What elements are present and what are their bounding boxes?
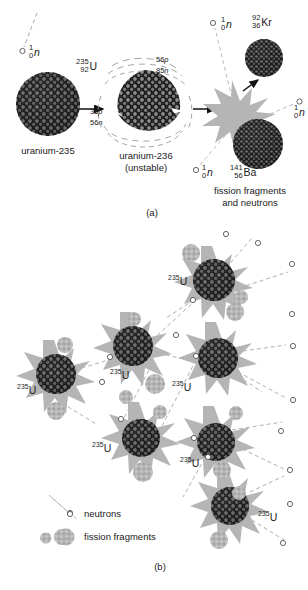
- chain-nucleus-label-6: 235U: [180, 458, 199, 469]
- emitted-neutron-3-symbol: n: [207, 166, 213, 178]
- legend-neutron-marker: [67, 511, 72, 516]
- emitted-neutron-circle-1: [210, 20, 215, 25]
- legend-neutrons-label: neutrons: [84, 509, 121, 519]
- incoming-neutron-label: 10n: [29, 44, 40, 60]
- emitted-neutron-1-symbol: n: [226, 18, 232, 30]
- incoming-neutron-symbol: n: [34, 46, 40, 58]
- chain-2-symbol: U: [122, 369, 130, 381]
- krypton-symbol: Kr: [261, 16, 272, 28]
- products-caption-line1: fission fragments: [214, 185, 286, 196]
- chain-5-symbol: U: [104, 442, 112, 454]
- panel-b-graphics: [16, 231, 296, 549]
- chain-nucleus-label-3: 235U: [168, 276, 187, 287]
- chain-1-mass: 235: [17, 383, 29, 390]
- compound-lower-neutron-label: 56n: [90, 119, 103, 127]
- upper-p-symbol: p: [164, 55, 168, 64]
- legend-fragment-marker-large: [58, 529, 75, 546]
- chain-7-mass: 235: [258, 510, 270, 517]
- compound-upper-neutron-label: 85n: [156, 67, 169, 75]
- fission-figure: 10n 23592U uranium-235 56p 85n 36p 56n u…: [0, 0, 308, 590]
- chain-nucleus-label-4: 235U: [172, 382, 191, 393]
- emitted-neutron-circle-3: [193, 167, 198, 172]
- upper-n-symbol: n: [164, 66, 168, 75]
- uranium-235-caption: uranium-235: [6, 145, 90, 157]
- compound-upper-nucleon-label: 56p: [156, 56, 169, 64]
- chain-nucleus-label-7: 235U: [258, 512, 277, 523]
- chain-1-symbol: U: [29, 384, 37, 396]
- emitted-neutron-path-1: [215, 28, 232, 98]
- uranium-235-isotope-label: 23592U: [76, 58, 97, 74]
- fission-products-caption: fission fragments and neutrons: [194, 185, 306, 209]
- legend-fragments-label: fission fragments: [84, 532, 156, 542]
- chain-6-mass: 235: [180, 456, 192, 463]
- emitted-neutron-path-3: [199, 130, 230, 166]
- uranium-235-symbol: U: [89, 60, 97, 72]
- barium-symbol: Ba: [243, 166, 256, 178]
- chain-7-symbol: U: [270, 511, 278, 523]
- krypton-atomic: 36: [252, 21, 261, 30]
- chain-3-mass: 235: [168, 274, 180, 281]
- compound-lower-nucleon-label: 36p: [90, 108, 103, 116]
- products-caption-line2: and neutrons: [222, 197, 277, 208]
- uranium-235-atomic: 92: [80, 65, 89, 74]
- emitted-neutron-1-atomic: 0: [221, 23, 225, 32]
- emitted-neutron-label-2: 10n: [294, 104, 305, 120]
- incoming-neutron-path: [24, 13, 37, 47]
- incoming-neutron-atomic: 0: [29, 51, 33, 60]
- chain-nucleus-label-2: 235U: [110, 370, 129, 381]
- lower-n-symbol: n: [98, 118, 102, 127]
- panel-a-label: (a): [132, 207, 172, 219]
- lower-p-symbol: p: [98, 107, 102, 116]
- emitted-neutron-label-3: 10n: [202, 164, 213, 180]
- chain-nucleus-label-5: 235U: [92, 443, 111, 454]
- chain-6-symbol: U: [192, 457, 200, 469]
- uranium-236-caption-line1: uranium-236: [119, 150, 172, 161]
- uranium-235-shading: [16, 72, 80, 136]
- panel-b-label: (b): [140, 561, 180, 573]
- figure-canvas: [0, 0, 308, 590]
- chain-5-mass: 235: [92, 441, 104, 448]
- emitted-neutron-3-atomic: 0: [202, 171, 206, 180]
- legend-fragment-marker-small: [41, 533, 52, 544]
- uranium-236-caption-line2: (unstable): [125, 162, 167, 173]
- barium-141-isotope-label: 14156Ba: [230, 164, 256, 180]
- krypton-shading: [245, 39, 283, 77]
- emitted-neutron-path-2: [270, 103, 296, 114]
- barium-atomic: 56: [234, 171, 243, 180]
- krypton-arrow: [243, 80, 258, 91]
- uranium-236-caption: uranium-236 (unstable): [100, 150, 192, 174]
- emitted-neutron-2-symbol: n: [299, 106, 305, 118]
- incoming-neutron-circle: [20, 48, 25, 53]
- emitted-neutron-2-atomic: 0: [294, 111, 298, 120]
- chain-nucleus-label-1: 235U: [17, 385, 36, 396]
- emitted-neutron-label-1: 10n: [221, 16, 232, 32]
- barium-shading: [233, 119, 283, 169]
- krypton-92-isotope-label: 9236Kr: [252, 14, 272, 30]
- chain-3-symbol: U: [180, 275, 188, 287]
- chain-4-symbol: U: [184, 381, 192, 393]
- uranium-236-nucleus: [117, 70, 180, 131]
- chain-2-mass: 235: [110, 368, 122, 375]
- chain-4-mass: 235: [172, 380, 184, 387]
